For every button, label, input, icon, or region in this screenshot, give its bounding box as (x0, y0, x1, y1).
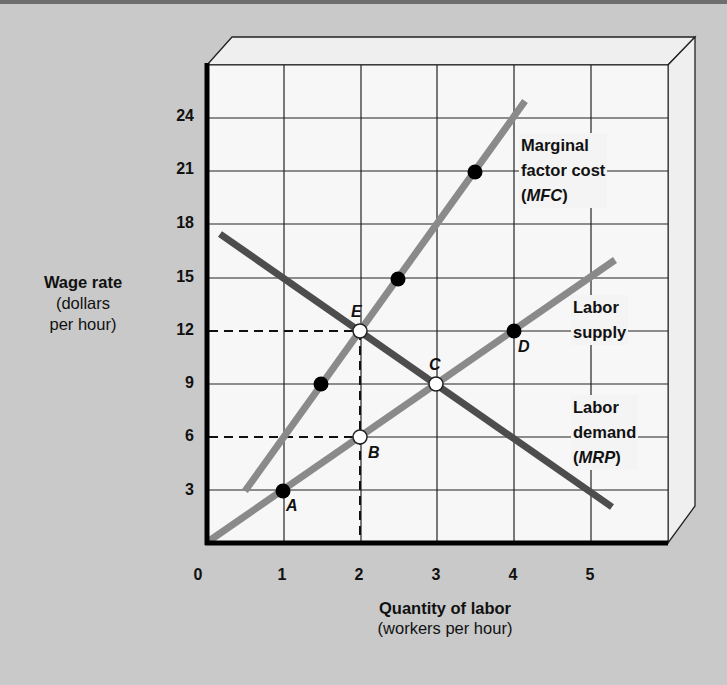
x-tick-0: 0 (183, 566, 213, 584)
point-label-c: C (429, 356, 441, 374)
box-right-face (668, 37, 695, 543)
y-tick-24: 24 (164, 107, 194, 125)
paren-close: ) (562, 186, 568, 204)
point-label-b: B (368, 444, 380, 462)
demand-label-line2: demand (573, 420, 636, 445)
mfc-label-line1: Marginal (521, 133, 605, 158)
point-b (353, 430, 367, 444)
point-label-e: E (351, 303, 362, 321)
y-axis-title-sub1: (dollars (18, 293, 148, 314)
x-tick-5: 5 (575, 566, 605, 584)
mfc-abbrev: MFC (527, 186, 563, 204)
x-axis-title-sub: (workers per hour) (330, 618, 560, 638)
y-tick-15: 15 (164, 268, 194, 286)
demand-label: Labor demand (MRP) (571, 395, 638, 470)
y-tick-18: 18 (164, 214, 194, 232)
x-tick-3: 3 (421, 566, 451, 584)
demand-label-line3: (MRP) (573, 445, 636, 470)
y-tick-6: 6 (164, 427, 194, 445)
y-axis-title-sub2: per hour) (18, 314, 148, 335)
point-e (353, 324, 367, 338)
box-top-face (207, 37, 695, 65)
y-tick-12: 12 (164, 321, 194, 339)
supply-label-line2: supply (573, 320, 626, 345)
point-label-a: A (286, 497, 298, 515)
supply-label: Labor supply (571, 295, 628, 345)
y-tick-9: 9 (164, 374, 194, 392)
point-d (507, 324, 522, 339)
y-axis-title: Wage rate (dollars per hour) (18, 272, 148, 335)
x-tick-1: 1 (267, 566, 297, 584)
y-tick-3: 3 (164, 481, 194, 499)
x-axis-title-main: Quantity of labor (330, 598, 560, 618)
supply-label-line1: Labor (573, 295, 626, 320)
mfc-label: Marginal factor cost (MFC) (519, 133, 607, 208)
mfc-label-line2: factor cost (521, 158, 605, 183)
point-mfc-15 (391, 272, 406, 287)
x-axis-title: Quantity of labor (workers per hour) (330, 598, 560, 638)
point-label-d: D (518, 338, 530, 356)
mfc-label-line3: (MFC) (521, 183, 605, 208)
x-tick-2: 2 (344, 566, 374, 584)
paren-close: ) (615, 448, 621, 466)
point-mfc-21 (468, 165, 483, 180)
point-c (429, 377, 443, 391)
demand-label-line1: Labor (573, 395, 636, 420)
y-axis-title-main: Wage rate (18, 272, 148, 293)
y-tick-21: 21 (164, 160, 194, 178)
point-mfc-9 (314, 377, 329, 392)
mrp-abbrev: MRP (579, 448, 616, 466)
x-tick-4: 4 (498, 566, 528, 584)
